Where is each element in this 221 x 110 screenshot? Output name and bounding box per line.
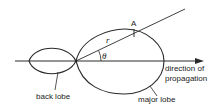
diagram-canvas: A r θ direction of propagation back lobe… — [0, 0, 221, 110]
angle-arc — [99, 51, 101, 62]
angle-theta-label: θ — [102, 51, 107, 61]
direction-label-line2: propagation — [165, 74, 207, 83]
major-lobe-label: major lobe — [138, 95, 176, 104]
direction-label-line1: direction of — [165, 64, 205, 73]
back-lobe-label: back lobe — [36, 92, 71, 101]
point-a-label: A — [131, 19, 137, 28]
radius-ray — [76, 9, 185, 61]
radius-label: r — [106, 35, 110, 45]
origin-point — [75, 60, 78, 63]
radiation-pattern-diagram: A r θ direction of propagation back lobe… — [0, 0, 221, 110]
back-lobe-leader — [55, 72, 58, 90]
